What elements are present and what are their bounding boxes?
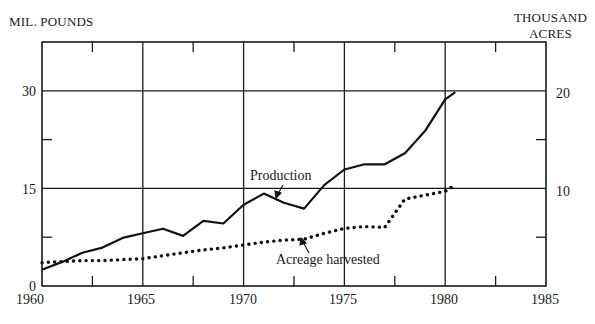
left-tick-30: 30 [6,85,36,99]
production-arrow [275,185,283,198]
x-tick-1975: 1975 [323,293,363,307]
axis-ticks [42,42,546,286]
right-axis-title-line2: ACRES [514,26,587,42]
x-tick-1960: 1960 [10,293,50,307]
right-tick-20: 20 [556,87,570,101]
x-tick-1970: 1970 [223,293,263,307]
x-tick-1965: 1965 [121,293,161,307]
x-tick-1980: 1980 [424,293,464,307]
right-axis-title-line1: THOUSAND [514,10,587,26]
left-axis-title: MIL. POUNDS [9,15,94,28]
right-tick-10: 10 [556,185,570,199]
acreage-label: Acreage harvested [276,253,380,267]
acreage-harvested-line [42,187,451,262]
grid-lines [42,42,546,286]
production-label: Production [250,169,311,183]
chart-canvas [0,0,595,324]
plot-frame [42,42,546,286]
left-tick-15: 15 [6,183,36,197]
right-axis-title: THOUSAND ACRES [514,10,587,42]
x-tick-1985: 1985 [525,293,565,307]
